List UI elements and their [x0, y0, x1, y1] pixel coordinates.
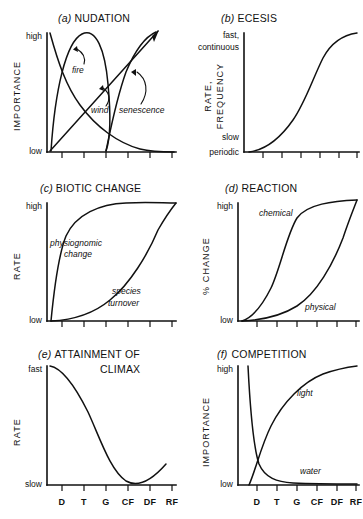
panel-a-label-senescence: senescence	[119, 105, 165, 115]
panel-e-xcat-2: G	[102, 497, 109, 507]
panel-a-ytick-low: low	[29, 146, 43, 156]
panel-b-title: (b)ECESIS	[221, 12, 277, 24]
panel-b-curve-ecesis	[249, 33, 357, 152]
panel-d-label-chemical: chemical	[259, 208, 294, 218]
panel-e-xcat-5: RF	[166, 497, 179, 507]
panel-c-label-species-line2: turnover	[108, 298, 140, 308]
panel-f-x-category-labels: D T G CF DF RF	[254, 497, 363, 507]
panel-f-yaxis-label: IMPORTANCE	[201, 397, 211, 467]
panel-f-xcat-1: T	[274, 497, 280, 507]
panel-f-xcat-5: RF	[350, 497, 363, 507]
panel-d-ytick-high: high	[217, 201, 233, 211]
panel-a-yaxis-label: IMPORTANCE	[12, 61, 22, 131]
panel-d-ytick-low: low	[220, 315, 234, 325]
panel-f-ytick-low: low	[220, 479, 234, 489]
panel-e-xcat-4: DF	[144, 497, 157, 507]
panel-e-curve-attainment	[50, 366, 166, 484]
panel-f-xcat-3: CF	[311, 497, 324, 507]
panel-e-title-line1: (e)ATTAINMENT OF	[38, 348, 140, 360]
panel-f-x-ticks	[257, 485, 356, 491]
panel-c-label-physiognomic-line1: physiognomic	[49, 238, 103, 248]
panel-a-curve-fire	[51, 33, 110, 151]
figure-root: (a)NUDATION high low IMPORTANCE	[0, 0, 363, 519]
panel-e-x-category-labels: D T G CF DF RF	[59, 497, 179, 507]
panel-f-label-water: water	[300, 466, 322, 476]
panel-b-yaxis-label-line1: RATE,	[203, 80, 213, 111]
panel-a-x-ticks	[62, 152, 172, 158]
panel-f-title: (f)COMPETITION	[217, 348, 307, 360]
panel-e-ytick-slow: slow	[25, 479, 43, 489]
panel-c-biotic-change: (c)BIOTIC CHANGE high low RATE physiogno…	[0, 172, 182, 344]
panel-a-arrow-fire	[77, 49, 85, 64]
panel-a-arrowhead-fire	[73, 46, 78, 52]
panel-e-title-line2: CLIMAX	[100, 363, 140, 375]
panel-a-arrow-senescence	[137, 72, 146, 104]
panel-b-ytick-periodic: periodic	[209, 147, 240, 157]
panel-a-title: (a)NUDATION	[58, 12, 130, 24]
panel-c-ytick-low: low	[29, 315, 43, 325]
panel-b-ecesis: (b)ECESIS fast, continuous slow periodic…	[181, 0, 363, 175]
panel-e-xcat-0: D	[59, 497, 66, 507]
panel-e-yaxis-label: RATE	[12, 418, 22, 446]
panel-a-label-fire: fire	[72, 65, 84, 75]
panel-d-reaction: (d)REACTION high low % CHANGE chemical p…	[181, 172, 363, 344]
panel-f-xcat-0: D	[254, 497, 261, 507]
panel-a-arrowhead-senescence	[131, 69, 136, 76]
panel-d-yaxis-label: % CHANGE	[201, 237, 211, 295]
panel-b-ytick-fast: fast,	[223, 30, 239, 40]
panel-d-label-physical: physical	[304, 302, 337, 312]
panel-b-x-ticks	[263, 152, 357, 158]
panel-e-attainment-of-climax: (e)ATTAINMENT OF CLIMAX fast slow RATE D…	[0, 340, 182, 519]
panel-c-ytick-high: high	[26, 201, 42, 211]
panel-c-title: (c)BIOTIC CHANGE	[40, 182, 141, 194]
panel-d-x-ticks	[257, 321, 356, 327]
panel-b-yaxis-label-line2: FREQUENCY	[215, 63, 225, 129]
panel-f-xcat-2: G	[293, 497, 300, 507]
panel-c-x-ticks	[62, 321, 172, 327]
panel-a-ytick-high: high	[26, 31, 42, 41]
panel-f-competition: (f)COMPETITION high low IMPORTANCE light…	[181, 340, 363, 519]
panel-a-nudation: (a)NUDATION high low IMPORTANCE	[0, 0, 182, 175]
panel-b-ytick-slow: slow	[222, 132, 240, 142]
panel-e-xcat-1: T	[81, 497, 87, 507]
panel-e-x-ticks	[62, 485, 172, 491]
panel-c-label-species-line1: species	[112, 286, 142, 296]
panel-f-label-light: light	[297, 388, 313, 398]
panel-c-yaxis-label: RATE	[12, 252, 22, 280]
panel-b-ytick-continuous: continuous	[198, 42, 239, 52]
panel-f-xcat-4: DF	[331, 497, 344, 507]
panel-d-curve-chemical	[242, 200, 357, 321]
panel-a-arrowhead-wind	[99, 85, 104, 91]
panel-c-label-physiognomic-line2: change	[64, 249, 92, 259]
panel-e-ytick-fast: fast	[28, 364, 42, 374]
panel-f-ytick-high: high	[217, 364, 233, 374]
panel-d-curve-physical	[242, 200, 357, 321]
panel-a-curve-senescence	[106, 32, 156, 151]
panel-e-xcat-3: CF	[122, 497, 135, 507]
panel-d-title: (d)REACTION	[225, 182, 297, 194]
